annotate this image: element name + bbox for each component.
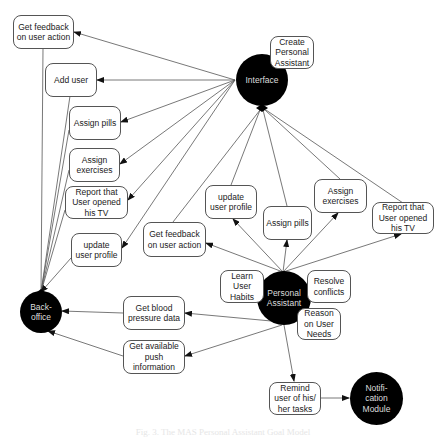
goal-assign-pills-mid: Assign pills: [263, 206, 312, 240]
goal-get-feedback-left: Get feedback on user action: [13, 15, 74, 49]
edge: [120, 80, 235, 164]
goal-add-user: Add user: [45, 63, 97, 97]
edge: [74, 32, 235, 80]
edge: [41, 48, 43, 292]
goal-get-feedback-mid: Get feedback on user action: [143, 222, 206, 257]
edge: [128, 80, 235, 200]
edge: [185, 325, 282, 356]
goal-report-tv-left: Report that User opened his TV: [65, 186, 128, 219]
agent-back-office: Back- office: [20, 291, 62, 333]
goal-update-profile-left: update user profile: [71, 233, 122, 267]
edge: [283, 240, 287, 272]
goal-assign-pills-left: Assign pills: [69, 106, 121, 140]
edge: [62, 311, 123, 313]
edge: [41, 170, 69, 292]
edge: [231, 110, 260, 185]
edge: [284, 325, 294, 381]
edge: [121, 80, 235, 122]
goal-resolve-conflicts: Resolve conflicts: [307, 270, 351, 303]
goal-create-personal-assistant: Create Personal Assistant: [270, 36, 314, 69]
edge: [263, 110, 287, 206]
goal-assign-exercises-left: Assign exercises: [69, 148, 120, 182]
edge: [206, 243, 283, 272]
goal-get-blood-pressure: Get blood pressure data: [123, 296, 185, 330]
goal-report-tv-mid: Report that User opened his TV: [372, 202, 434, 234]
goal-update-profile-mid: update user profile: [205, 185, 257, 219]
goal-assign-exercises-mid: Assign exercises: [314, 179, 367, 213]
goal-get-push-information: Get available push information: [123, 340, 185, 374]
figure-caption: Fig. 3. The MAS Personal Assistant Goal …: [0, 427, 446, 437]
agent-notification-module: Notifi- cation Module: [350, 372, 403, 425]
goal-reason-user-needs: Reason on User Needs: [297, 308, 341, 340]
edge: [48, 331, 123, 356]
goal-learn-user-habits: Learn User Habits: [220, 270, 264, 303]
edge: [265, 110, 340, 179]
goal-remind-user-tasks: Remind user of his/ her tasks: [269, 382, 321, 415]
